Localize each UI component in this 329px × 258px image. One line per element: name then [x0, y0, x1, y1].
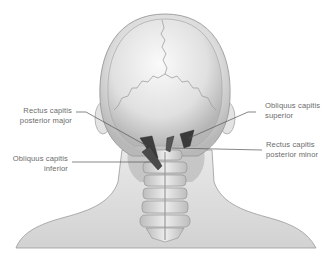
label-obliquus-capitis-superior: Obliquus capitis superior: [265, 101, 329, 120]
label-line: posterior major: [6, 116, 72, 126]
label-line: Obliquus capitis: [2, 154, 68, 164]
cervical-spine: [140, 150, 190, 242]
skull: [108, 19, 222, 146]
label-line: Obliquus capitis: [265, 101, 329, 111]
anatomy-diagram: Rectus capitis posterior major Obliquus …: [0, 0, 329, 258]
label-line: superior: [265, 111, 329, 121]
label-rectus-capitis-posterior-minor: Rectus capitis posterior minor: [266, 140, 329, 159]
label-obliquus-capitis-inferior: Obliquus capitis inferior: [2, 154, 68, 173]
label-line: Rectus capitis: [6, 106, 72, 116]
label-line: inferior: [2, 164, 68, 174]
head-neck-illustration: [0, 0, 329, 258]
label-rectus-capitis-posterior-major: Rectus capitis posterior major: [6, 106, 72, 125]
label-line: posterior minor: [266, 150, 329, 160]
label-line: Rectus capitis: [266, 140, 329, 150]
